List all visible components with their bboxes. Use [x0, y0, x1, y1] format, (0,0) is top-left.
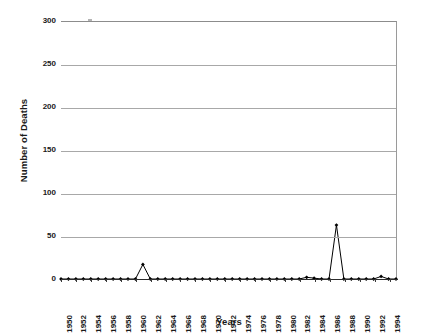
- x-tick-mark: [285, 279, 286, 282]
- data-point-marker: [335, 223, 339, 227]
- y-axis-tick-labels: 050100150200250300: [30, 20, 56, 280]
- y-tick-label: 150: [30, 145, 56, 154]
- y-tick-label: 200: [30, 102, 56, 111]
- x-tick-mark: [210, 279, 211, 282]
- x-tick-mark: [255, 279, 256, 282]
- y-tick-label: 250: [30, 59, 56, 68]
- x-tick-mark: [360, 279, 361, 282]
- y-tick-label: 0: [30, 274, 56, 283]
- x-tick-mark: [61, 279, 62, 282]
- x-tick-mark: [121, 279, 122, 282]
- x-tick-mark: [315, 279, 316, 282]
- gridline: [61, 194, 396, 195]
- y-tick-label: 50: [30, 231, 56, 240]
- x-tick-mark: [300, 279, 301, 282]
- series-polyline: [61, 225, 396, 279]
- x-tick-mark: [76, 279, 77, 282]
- x-tick-mark: [225, 279, 226, 282]
- x-tick-mark: [91, 279, 92, 282]
- x-axis-tick-labels: 1950195219541956195819601962196419661968…: [61, 282, 397, 318]
- x-tick-mark: [166, 279, 167, 282]
- x-tick-mark: [270, 279, 271, 282]
- plot-inner: [61, 22, 396, 279]
- gridline: [61, 108, 396, 109]
- gridline: [61, 237, 396, 238]
- x-tick-mark: [375, 279, 376, 282]
- gridline: [61, 151, 396, 152]
- gridline: [61, 65, 396, 66]
- chart-figure: Number of Deaths 050100150200250300 1950…: [0, 0, 445, 335]
- plot-area: [61, 21, 397, 279]
- data-point-marker: [141, 263, 145, 267]
- x-axis-line: [61, 279, 398, 280]
- x-tick-mark: [151, 279, 152, 282]
- x-tick-mark: [195, 279, 196, 282]
- y-tick-label: 100: [30, 188, 56, 197]
- x-tick-mark: [345, 279, 346, 282]
- x-tick-mark: [240, 279, 241, 282]
- y-axis-title-text: Number of Deaths: [19, 98, 30, 181]
- x-tick-mark: [136, 279, 137, 282]
- x-tick-mark: [330, 279, 331, 282]
- x-tick-mark: [390, 279, 391, 282]
- x-tick-mark: [180, 279, 181, 282]
- x-tick-mark: [106, 279, 107, 282]
- x-axis-title: Years: [61, 316, 397, 327]
- data-point-marker: [379, 275, 383, 279]
- y-tick-label: 300: [30, 16, 56, 25]
